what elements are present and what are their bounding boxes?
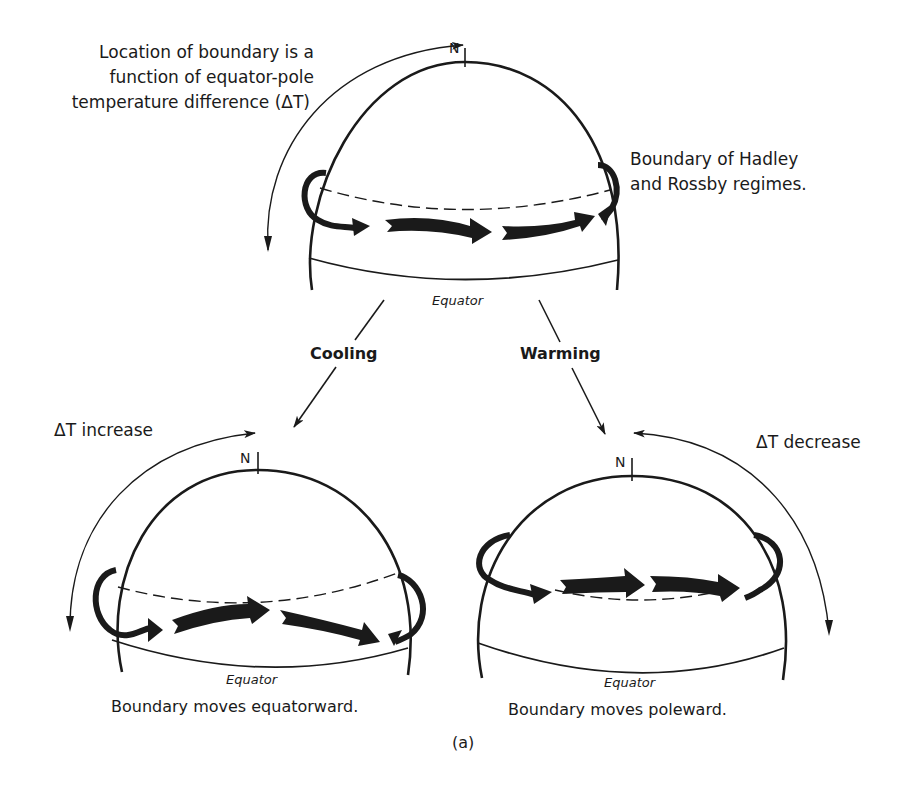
warming-arrow-upper [539, 300, 560, 342]
top-flow-arrow-2 [502, 212, 595, 240]
diagram-canvas [0, 0, 903, 797]
top-equator-line [309, 258, 618, 280]
cooling-arrow-upper [355, 300, 384, 340]
right-equator-line [478, 643, 784, 673]
left-delta-label: ΔT increase [54, 418, 153, 443]
top-globe-outline [310, 62, 619, 290]
top-boundary-dashed [320, 188, 610, 210]
top-equator-label: Equator [432, 288, 483, 313]
right-flow-arrow-2 [650, 574, 740, 602]
right-delta-label: ΔT decrease [756, 430, 861, 455]
right-caption: Boundary moves poleward. [508, 697, 727, 722]
left-pole-label: N [240, 446, 250, 471]
right-left-loop [479, 535, 535, 595]
top-flow-arrow-1 [385, 218, 492, 244]
top-left-loop [305, 173, 355, 228]
cooling-arrow-lower [294, 367, 336, 427]
left-flow-arrow-2 [280, 610, 380, 646]
top-globe [305, 48, 619, 290]
boundary-note-line-2: and Rossby regimes. [630, 172, 807, 197]
left-flow-arrow-1 [172, 596, 270, 634]
boundary-note-line-1: Boundary of Hadley [630, 147, 798, 172]
warming-arrow-lower [572, 368, 605, 434]
warming-label: Warming [520, 341, 601, 366]
figure-label: (a) [452, 730, 474, 755]
left-equator-label: Equator [226, 667, 277, 692]
left-globe [96, 452, 423, 675]
top-note-line-2: function of equator-pole [20, 65, 314, 90]
top-note-line-3: temperature difference (ΔT) [20, 90, 310, 115]
right-delta-arc-arrow [634, 433, 829, 632]
right-equator-label: Equator [604, 670, 655, 695]
left-boundary-dashed [118, 572, 400, 603]
right-pole-label: N [615, 450, 625, 475]
left-caption: Boundary moves equatorward. [111, 694, 358, 719]
cooling-label: Cooling [310, 341, 378, 366]
top-note-line-1: Location of boundary is a [20, 40, 314, 65]
top-pole-label: N [449, 36, 459, 61]
right-globe [478, 458, 786, 680]
